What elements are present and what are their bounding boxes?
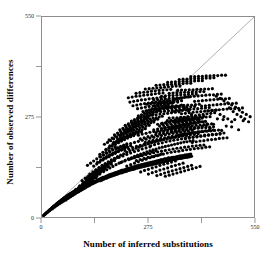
y-tick-label: 0 [14,215,34,221]
y-tick-label: 550 [14,13,34,19]
y-tick-label: 275 [14,114,34,120]
scatter-plot-figure: Number of inferred substitutions Number … [0,0,277,258]
x-axis-title: Number of inferred substitutions [41,239,255,249]
y-axis-title: Number of observed differences [5,21,15,223]
axis-ticks [35,16,261,226]
x-tick-label: 275 [138,224,158,230]
x-tick-label: 550 [245,224,265,230]
x-tick-label: 0 [31,224,51,230]
